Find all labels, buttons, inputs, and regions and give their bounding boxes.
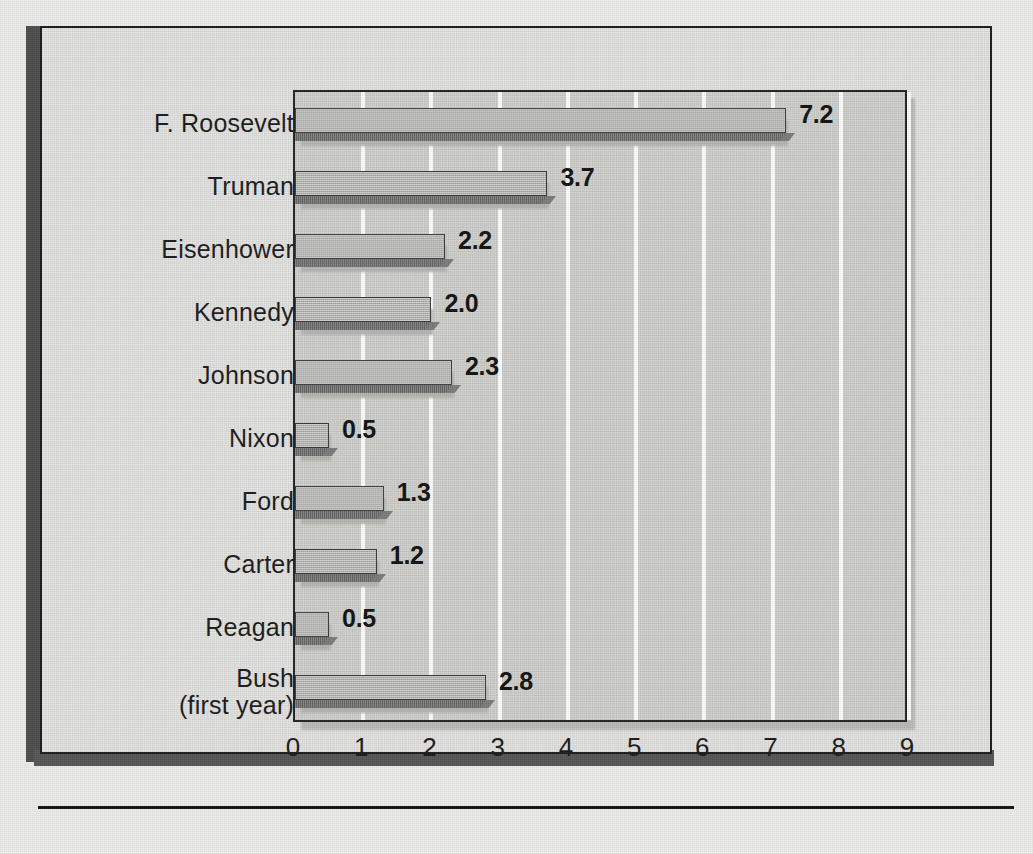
bar[interactable] — [295, 549, 377, 583]
category-label: F. Roosevelt — [34, 110, 294, 137]
category-label: Ford — [34, 488, 294, 515]
bar-front-face — [295, 511, 384, 519]
bar-top-face — [295, 486, 384, 511]
bar[interactable] — [295, 486, 384, 520]
x-axis-tick-label: 8 — [832, 732, 846, 763]
bar[interactable] — [295, 360, 452, 394]
x-axis-tick-label: 9 — [900, 732, 914, 763]
bar-row: 7.2 — [295, 94, 905, 157]
bar-chart: 7.23.72.22.02.30.51.31.20.52.8 F. Roosev… — [26, 26, 994, 766]
bar-value-label: 0.5 — [342, 415, 376, 444]
bar-top-face — [295, 612, 329, 637]
bar[interactable] — [295, 108, 786, 142]
category-label: Truman — [34, 173, 294, 200]
footer-rule — [38, 806, 1014, 809]
category-label: Carter — [34, 551, 294, 578]
bar-top-face — [295, 549, 377, 574]
bar-row: 2.3 — [295, 346, 905, 409]
bar-row: 2.2 — [295, 220, 905, 283]
bar-value-label: 2.8 — [499, 667, 533, 696]
bar-value-label: 1.3 — [397, 478, 431, 507]
bar-row: 3.7 — [295, 157, 905, 220]
bar-top-face — [295, 297, 431, 322]
bar-top-face — [295, 360, 452, 385]
bar-front-face — [295, 385, 452, 393]
bar-front-face — [295, 574, 377, 582]
bar[interactable] — [295, 171, 547, 205]
category-label: Nixon — [34, 425, 294, 452]
x-axis-tick-label: 7 — [763, 732, 777, 763]
bar-value-label: 0.5 — [342, 604, 376, 633]
bar-row: 0.5 — [295, 409, 905, 472]
category-label: Johnson — [34, 362, 294, 389]
bar[interactable] — [295, 234, 445, 268]
bar-value-label: 3.7 — [560, 163, 594, 192]
bar[interactable] — [295, 423, 329, 457]
x-axis-tick-label: 6 — [695, 732, 709, 763]
bar[interactable] — [295, 675, 486, 709]
x-axis-tick-label: 1 — [354, 732, 368, 763]
x-axis-tick-label: 4 — [559, 732, 573, 763]
bar-top-face — [295, 423, 329, 448]
bar-value-label: 2.0 — [444, 289, 478, 318]
bar-top-face — [295, 171, 547, 196]
bar-front-face — [295, 700, 486, 708]
x-axis-tick-label: 3 — [490, 732, 504, 763]
category-label: Eisenhower — [34, 236, 294, 263]
bar[interactable] — [295, 297, 431, 331]
category-label: Bush (first year) — [34, 665, 294, 719]
bar-value-label: 7.2 — [799, 100, 833, 129]
plot-area: 7.23.72.22.02.30.51.31.20.52.8 — [293, 90, 907, 722]
bar-front-face — [295, 196, 547, 204]
category-label: Reagan — [34, 614, 294, 641]
bar-front-face — [295, 133, 786, 141]
bar-value-label: 2.2 — [458, 226, 492, 255]
x-axis-tick-label: 2 — [422, 732, 436, 763]
bar-value-label: 1.2 — [390, 541, 424, 570]
bar-front-face — [295, 322, 431, 330]
gridline — [907, 92, 911, 720]
x-axis-tick-label: 0 — [286, 732, 300, 763]
x-axis-tick-label: 5 — [627, 732, 641, 763]
bar-row: 2.0 — [295, 283, 905, 346]
bar-row: 1.3 — [295, 472, 905, 535]
bar-row: 1.2 — [295, 535, 905, 598]
bar-row: 0.5 — [295, 598, 905, 661]
bar-front-face — [295, 259, 445, 267]
bar-top-face — [295, 108, 786, 133]
bar-value-label: 2.3 — [465, 352, 499, 381]
bar[interactable] — [295, 612, 329, 646]
bar-row: 2.8 — [295, 661, 905, 724]
bar-top-face — [295, 675, 486, 700]
category-label: Kennedy — [34, 299, 294, 326]
bar-top-face — [295, 234, 445, 259]
